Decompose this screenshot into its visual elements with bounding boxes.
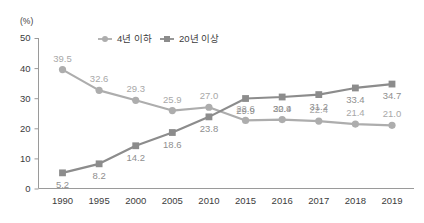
x-tick-label: 1995	[89, 195, 110, 206]
chart-container: (%) 01020304050 199019952000200520102015…	[0, 0, 424, 223]
data-point-marker	[352, 120, 359, 127]
series-line	[63, 70, 393, 126]
y-tick-label: 0	[25, 183, 30, 194]
data-point-marker	[352, 85, 359, 92]
series-2: 5.28.214.218.623.829.930.431.233.434.7	[56, 81, 401, 190]
y-tick-label: 10	[20, 153, 31, 164]
data-point-label: 14.2	[126, 152, 145, 163]
x-tick-label: 2019	[381, 195, 402, 206]
x-tick-label: 1990	[52, 195, 73, 206]
data-point-label: 21.4	[346, 107, 365, 118]
data-point-marker	[96, 87, 103, 94]
data-point-label: 8.2	[93, 170, 106, 181]
x-tick-label: 2017	[308, 195, 329, 206]
series-line	[63, 84, 393, 173]
data-point-label: 39.5	[53, 53, 72, 64]
data-point-marker	[315, 117, 322, 124]
legend-circle-marker	[102, 36, 108, 42]
data-point-marker	[389, 81, 396, 88]
y-tick-label: 40	[20, 63, 31, 74]
data-point-marker	[59, 169, 66, 176]
y-tick-label: 30	[20, 93, 31, 104]
data-point-marker	[205, 104, 212, 111]
data-point-label: 31.2	[310, 101, 329, 112]
data-point-marker	[315, 91, 322, 98]
line-chart: (%) 01020304050 199019952000200520102015…	[0, 0, 424, 223]
legend-label-1: 4년 이하	[117, 33, 152, 44]
legend-label-2: 20년 이상	[179, 33, 219, 44]
data-point-label: 25.9	[163, 94, 182, 105]
data-point-label: 34.7	[383, 90, 402, 101]
data-point-label: 29.9	[236, 105, 255, 116]
data-point-marker	[279, 94, 286, 101]
data-point-marker	[169, 129, 176, 136]
y-axis-unit-label: (%)	[20, 16, 33, 26]
series-1: 39.532.629.325.927.022.622.922.421.421.0	[53, 53, 401, 129]
x-axis-tick-labels: 1990199520002005201020152016201720182019	[52, 195, 403, 206]
x-tick-label: 2010	[198, 195, 219, 206]
data-point-marker	[96, 160, 103, 167]
data-point-marker	[169, 107, 176, 114]
chart-legend: 4년 이하20년 이상	[98, 33, 219, 44]
data-point-marker	[279, 116, 286, 123]
data-point-label: 29.3	[126, 83, 145, 94]
legend-square-marker	[164, 36, 170, 42]
data-point-marker	[132, 97, 139, 104]
data-point-label: 27.0	[200, 90, 219, 101]
data-point-marker	[388, 122, 395, 129]
x-tick-label: 2016	[272, 195, 293, 206]
data-point-marker	[132, 142, 139, 149]
data-point-label: 32.6	[90, 73, 109, 84]
data-point-marker	[242, 95, 249, 102]
data-point-label: 33.4	[346, 94, 365, 105]
chart-series-layer: 39.532.629.325.927.022.622.922.421.421.0…	[53, 53, 401, 190]
data-point-label: 30.4	[273, 103, 292, 114]
data-point-label: 18.6	[163, 139, 182, 150]
data-point-marker	[242, 117, 249, 124]
data-point-label: 23.8	[200, 123, 219, 134]
data-point-label: 5.2	[56, 179, 69, 190]
x-tick-label: 2015	[235, 195, 256, 206]
x-tick-label: 2018	[345, 195, 366, 206]
y-axis-ticks: 01020304050	[20, 32, 39, 194]
data-point-marker	[206, 113, 213, 120]
y-tick-label: 50	[20, 32, 31, 43]
y-tick-label: 20	[20, 123, 31, 134]
x-tick-label: 2005	[162, 195, 183, 206]
data-point-label: 21.0	[383, 108, 402, 119]
x-tick-label: 2000	[125, 195, 146, 206]
data-point-marker	[59, 66, 66, 73]
